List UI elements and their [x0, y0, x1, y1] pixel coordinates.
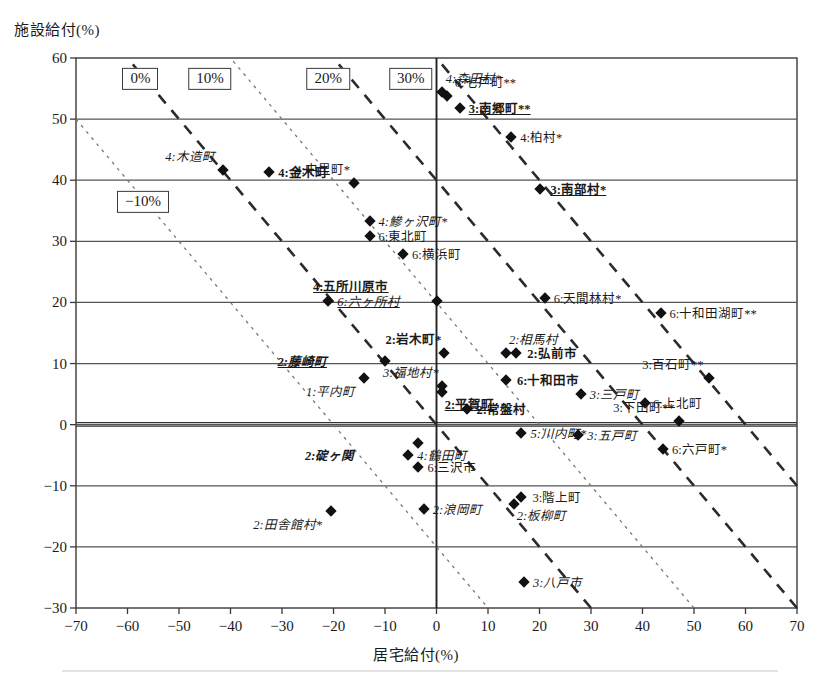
y-axis-tick-label: 20: [14, 294, 67, 311]
data-point-label: 3:南郷町**: [469, 103, 531, 116]
reference-band-legend-minus10: −10%: [117, 190, 169, 212]
y-axis-tick-label: 30: [14, 233, 67, 250]
data-point-label: 2:碇ヶ関: [305, 450, 354, 463]
data-point-label: 4:五所川原市: [313, 281, 388, 294]
x-axis-tick-label: 50: [687, 618, 702, 635]
data-point-label: 6:十和田湖町**: [670, 308, 757, 321]
reference-band-legend-10: 10%: [188, 68, 232, 90]
data-point-label: 6:七戸町**: [455, 77, 516, 90]
data-point-label: 3:下田町**: [613, 402, 674, 415]
x-axis-tick-label: −10: [373, 618, 396, 635]
reference-band-legend-0: 0%: [122, 68, 158, 90]
data-point-label: 3:百石町**: [642, 359, 703, 372]
x-axis-tick-label: −40: [219, 618, 242, 635]
data-point-label: 6:東北町: [379, 231, 428, 244]
y-axis-tick-label: −30: [14, 600, 67, 617]
data-point-label: 6:三沢市: [427, 462, 476, 475]
x-axis-tick-label: −50: [167, 618, 190, 635]
x-axis-tick-label: 0: [433, 618, 441, 635]
y-axis-tick-label: −10: [14, 477, 67, 494]
data-point-label: 1:平内町: [306, 386, 355, 399]
y-axis-tick-label: 50: [14, 111, 67, 128]
y-axis-tick-label: 10: [14, 355, 67, 372]
data-point-label: 2:岩木町*: [386, 334, 442, 347]
y-axis-tick-label: 60: [14, 50, 67, 67]
x-axis-tick-label: −70: [64, 618, 87, 635]
y-axis-tick-label: −20: [14, 538, 67, 555]
x-axis-tick-label: 20: [532, 618, 547, 635]
x-axis-tick-label: −30: [270, 618, 293, 635]
data-point-label: 6:六戸町*: [672, 444, 727, 457]
reference-band-legend-30: 30%: [389, 68, 433, 90]
data-point-label: 3:階上町: [532, 492, 581, 505]
data-point-label: 2:常盤村: [476, 404, 525, 417]
data-point-label: 6:天間林村*: [554, 293, 622, 306]
data-point-label: 3:五戸町: [587, 430, 636, 443]
x-axis-tick-label: 30: [584, 618, 599, 635]
scatter-chart-figure: 施設給付(%) 居宅給付(%) 6050403020100−10−20−30−7…: [0, 0, 832, 685]
data-point-label: 4:鰺ヶ沢町*: [379, 216, 448, 229]
data-point-label: 6:横浜町: [412, 249, 461, 262]
data-point-label: 3:八戸市: [533, 577, 582, 590]
data-point-label: 6:六ヶ所村: [337, 296, 399, 309]
data-point-label: 2:浪岡町: [433, 504, 482, 517]
y-axis-tick-label: 0: [14, 416, 67, 433]
x-axis-tick-label: 10: [481, 618, 496, 635]
data-point-label: 4:柏村*: [520, 132, 562, 145]
data-point-label: 2:田舎館村*: [253, 519, 322, 532]
data-point-label: 2:板柳町: [517, 510, 566, 523]
data-point-label: 3:三戸町: [590, 389, 639, 402]
x-axis-tick-label: −60: [116, 618, 139, 635]
data-point-label: 6:十和田市: [517, 375, 579, 388]
x-axis-tick-label: 70: [790, 618, 805, 635]
data-point-label: 3:南部村*: [551, 184, 607, 197]
data-point-label: 2:藤崎町: [278, 356, 327, 369]
x-axis-tick-label: 40: [635, 618, 650, 635]
x-axis-tick-label: 60: [738, 618, 753, 635]
y-axis-tick-label: 40: [14, 172, 67, 189]
data-point-label: 3:福地村*: [383, 367, 439, 380]
reference-band-legend-20: 20%: [307, 68, 351, 90]
data-point-label: 2:弘前市: [527, 348, 576, 361]
x-axis-tick-label: −20: [322, 618, 345, 635]
data-point-label: 2:相馬村: [509, 334, 558, 347]
data-point-label: 4:中里町*: [295, 164, 350, 177]
data-point-label: 4:木造町: [165, 151, 214, 164]
